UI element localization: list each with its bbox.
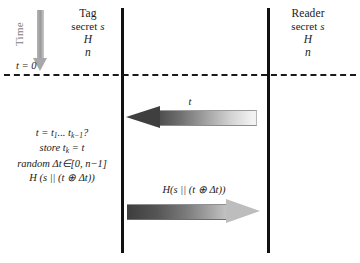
tag-computation-line-1: t = t1... tk−1?: [6, 126, 118, 141]
actor-counter-tag: n: [58, 46, 118, 59]
tag-line1-mid: ... t: [58, 127, 71, 138]
response-arrow-head-icon: [226, 199, 260, 223]
actor-hash-reader: H: [272, 33, 344, 46]
tag-line2-prefix: store t: [40, 142, 66, 153]
challenge-arrow-shaft-icon: [158, 110, 257, 126]
message-label-response: H(s || (t ⊕ Δt)): [128, 183, 260, 195]
actor-header-tag: Tag secret s H n: [58, 7, 118, 59]
time-zero-label: t = 0: [16, 60, 37, 71]
message-arrow-response: [127, 199, 260, 223]
actor-name-reader: Reader: [272, 7, 344, 20]
actor-hash-tag: H: [58, 33, 118, 46]
time-arrow-shaft-icon: [37, 10, 44, 60]
actor-secret-symbol-tag: s: [100, 20, 104, 32]
message-arrow-challenge: [126, 106, 256, 128]
time-zero-divider: [4, 74, 356, 76]
tag-computation-line-2: store tk = t: [6, 141, 118, 156]
tag-line1-prefix: t = t: [36, 127, 54, 138]
tag-computation-line-4: H (s || (t ⊕ Δt)): [6, 171, 118, 186]
actor-secret-reader: secret s: [272, 20, 344, 33]
actor-name-tag: Tag: [58, 7, 118, 20]
lifeline-tag: [121, 8, 124, 253]
actor-header-reader: Reader secret s H n: [272, 7, 344, 59]
response-arrow-shaft-icon: [127, 204, 227, 220]
actor-secret-symbol-reader: s: [320, 20, 324, 32]
tag-line1-suffix: ?: [83, 127, 88, 138]
tag-computation-line-3: random Δt∈[0, n−1]: [6, 157, 118, 172]
tag-line2-suffix: = t: [69, 142, 84, 153]
time-axis-label: Time: [13, 12, 25, 56]
actor-secret-word-tag: secret: [71, 20, 97, 32]
actor-counter-reader: n: [272, 46, 344, 59]
actor-secret-tag: secret s: [58, 20, 118, 33]
protocol-sequence-diagram: Time t = 0 Tag secret s H n Reader secre…: [0, 0, 360, 263]
tag-computation-block: t = t1... tk−1? store tk = t random Δt∈[…: [6, 126, 118, 186]
challenge-arrow-head-icon: [126, 106, 160, 128]
actor-secret-word-reader: secret: [291, 20, 317, 32]
tag-line1-sub2: k−1: [71, 131, 83, 140]
lifeline-reader: [267, 8, 270, 253]
